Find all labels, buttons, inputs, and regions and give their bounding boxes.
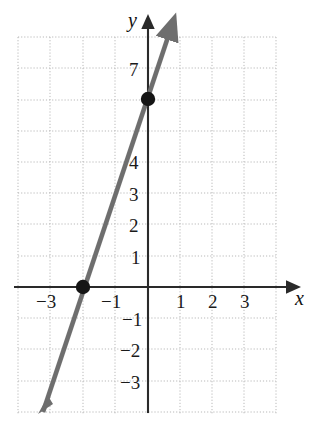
y-tick-label-neg1: −1 — [122, 310, 142, 329]
x-axis-label: x — [295, 288, 304, 308]
coordinate-plane — [0, 0, 311, 423]
x-tick-label-1: 1 — [176, 292, 186, 311]
point-y-intercept — [141, 92, 155, 106]
graph-figure: y x −3 −1 1 2 3 7 4 3 2 1 −1 −2 −3 — [0, 0, 311, 423]
y-axis-label: y — [128, 10, 137, 30]
y-tick-label-neg3: −3 — [120, 373, 140, 392]
y-tick-label-7: 7 — [129, 60, 139, 79]
y-tick-label-1: 1 — [131, 248, 141, 267]
y-tick-label-neg2: −2 — [120, 341, 140, 360]
x-tick-label-3: 3 — [240, 292, 250, 311]
y-tick-label-3: 3 — [129, 185, 139, 204]
y-tick-label-2: 2 — [129, 216, 139, 235]
point-x-intercept — [76, 280, 90, 294]
y-tick-label-4: 4 — [129, 153, 139, 172]
x-tick-label-neg3: −3 — [36, 292, 56, 311]
x-tick-label-neg1: −1 — [101, 292, 121, 311]
x-tick-label-2: 2 — [208, 292, 218, 311]
